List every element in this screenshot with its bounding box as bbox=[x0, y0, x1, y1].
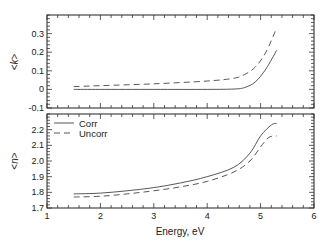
y-tick-label: 0.2 bbox=[31, 47, 44, 57]
series-line-uncorr bbox=[74, 28, 277, 87]
y-tick-label: 1.9 bbox=[31, 172, 44, 182]
x-tick-label: 4 bbox=[205, 211, 210, 221]
y-tick-label: 0.3 bbox=[31, 29, 44, 39]
bottom-panel-n: 1.71.81.92.02.12.2123456<n>CorrUncorr bbox=[9, 114, 317, 221]
chart: -0.100.10.20.3<k> 1.71.81.92.02.12.21234… bbox=[0, 0, 332, 245]
x-tick-label: 1 bbox=[44, 211, 49, 221]
legend-label-uncorr: Uncorr bbox=[79, 128, 108, 139]
plot-frame bbox=[47, 15, 314, 108]
x-axis-label: Energy, eV bbox=[156, 226, 205, 237]
y-axis-label: <n> bbox=[9, 152, 20, 169]
y-tick-label: 2.1 bbox=[31, 140, 44, 150]
x-tick-label: 6 bbox=[311, 211, 316, 221]
y-tick-label: 1.7 bbox=[31, 203, 44, 213]
y-axis-label: <k> bbox=[9, 54, 20, 71]
y-tick-label: -0.1 bbox=[28, 103, 44, 113]
top-panel-k: -0.100.10.20.3<k> bbox=[9, 15, 314, 113]
y-tick-label: 1.8 bbox=[31, 187, 44, 197]
y-tick-label: 0 bbox=[39, 84, 44, 94]
y-tick-label: 2.0 bbox=[31, 156, 44, 166]
y-tick-label: 0.1 bbox=[31, 66, 44, 76]
x-tick-label: 2 bbox=[98, 211, 103, 221]
x-tick-label: 5 bbox=[258, 211, 263, 221]
x-tick-label: 3 bbox=[151, 211, 156, 221]
series-line-uncorr bbox=[74, 136, 277, 197]
series-line-corr bbox=[74, 50, 277, 89]
y-tick-label: 2.2 bbox=[31, 125, 44, 135]
